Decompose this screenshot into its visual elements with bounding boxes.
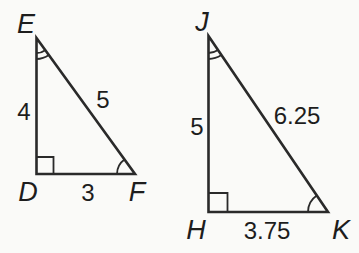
vertex-label-D: D [18, 177, 38, 207]
angle-arc-J [209, 50, 219, 53]
similar-triangles-figure: EDF453JHK56.253.75 [0, 0, 359, 253]
angle-arc-J [209, 55, 222, 59]
angle-arc-E [37, 50, 46, 53]
vertex-label-H: H [186, 215, 206, 245]
triangle-DEF: EDF453 [17, 9, 147, 207]
angle-arc-K [308, 195, 317, 212]
right-angle-mark-D [37, 157, 54, 174]
vertex-label-F: F [129, 177, 147, 207]
triangle-diagram: EDF453JHK56.253.75 [0, 0, 359, 253]
triangle-outline-DEF [37, 38, 136, 174]
angle-arc-E [37, 55, 49, 59]
side-label-EF: 5 [96, 86, 109, 113]
side-label-ED: 4 [17, 98, 30, 125]
side-label-HK: 3.75 [244, 217, 291, 244]
side-label-JH: 5 [190, 113, 203, 140]
angle-arc-F [117, 159, 124, 174]
vertex-label-E: E [17, 9, 36, 39]
vertex-label-J: J [194, 7, 209, 37]
triangle-JHK: JHK56.253.75 [186, 7, 351, 245]
vertex-label-K: K [332, 215, 351, 245]
right-angle-mark-H [209, 193, 228, 212]
side-label-JK: 6.25 [274, 102, 321, 129]
side-label-DF: 3 [81, 179, 94, 206]
